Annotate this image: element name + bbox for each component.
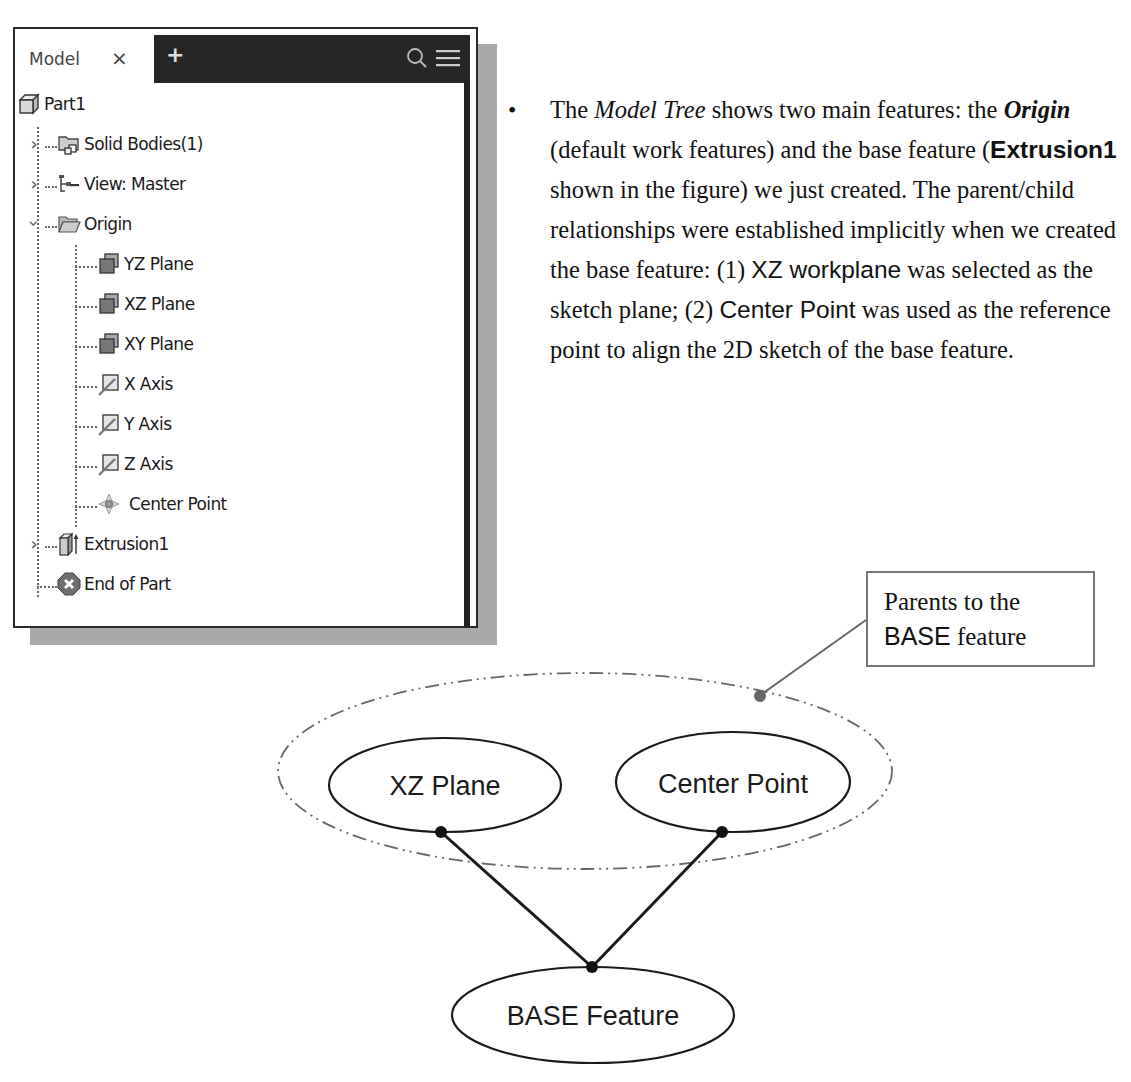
view-rep-icon bbox=[57, 172, 81, 196]
tree-connector bbox=[75, 506, 97, 508]
work-plane-icon bbox=[97, 332, 121, 356]
tree-connector bbox=[75, 306, 97, 308]
chevron-right-icon[interactable]: › bbox=[27, 173, 41, 194]
chevron-right-icon[interactable]: › bbox=[27, 133, 41, 154]
text-run: (default work features) and the base fea… bbox=[550, 136, 990, 163]
node-center-point-label: Center Point bbox=[658, 769, 809, 799]
tree-item-extrusion1[interactable]: Extrusion1 bbox=[57, 527, 169, 561]
work-point-icon bbox=[97, 492, 121, 516]
tree-item-label: XY Plane bbox=[124, 334, 193, 354]
node-base-feature bbox=[452, 967, 734, 1063]
search-icon[interactable] bbox=[406, 47, 428, 69]
tree-item-label: Center Point bbox=[129, 494, 227, 514]
callout-rest: feature bbox=[951, 623, 1027, 650]
tree-connector bbox=[75, 426, 97, 428]
solid-bodies-icon bbox=[57, 132, 81, 156]
text-run-sans: Center Point bbox=[719, 296, 855, 323]
text-run-bold-italic: Origin bbox=[1004, 96, 1071, 123]
text-run: shows two main features: the bbox=[706, 96, 1004, 123]
tree-connector bbox=[75, 266, 97, 268]
chevron-right-icon[interactable]: › bbox=[27, 533, 41, 554]
tree-item-x-axis[interactable]: X Axis bbox=[97, 367, 173, 401]
model-browser-panel: Model × + bbox=[13, 27, 478, 628]
tree-connector bbox=[75, 386, 97, 388]
tree-connector bbox=[45, 186, 57, 188]
end-of-part-icon bbox=[57, 572, 81, 596]
tree-item-label: Solid Bodies(1) bbox=[84, 134, 203, 154]
tree-item-label: Origin bbox=[84, 214, 132, 234]
tree-item-z-axis[interactable]: Z Axis bbox=[97, 447, 173, 481]
work-axis-icon bbox=[97, 372, 121, 396]
tree-item-label: Part1 bbox=[44, 94, 85, 114]
callout-leader-line bbox=[762, 620, 866, 694]
tab-model[interactable]: Model × bbox=[15, 35, 154, 83]
tree-item-origin[interactable]: Origin bbox=[57, 207, 132, 241]
text-run-sans: XZ workplane bbox=[751, 256, 901, 283]
open-folder-icon bbox=[57, 212, 81, 236]
node-base-feature-label: BASE Feature bbox=[507, 1001, 680, 1031]
tree-connector bbox=[37, 127, 39, 597]
tree-item-label: Extrusion1 bbox=[84, 534, 169, 554]
add-tab-button[interactable]: + bbox=[166, 43, 184, 67]
connector-line bbox=[441, 832, 592, 967]
tree-connector bbox=[45, 546, 57, 548]
work-axis-icon bbox=[97, 452, 121, 476]
panel-header: Model × + bbox=[15, 35, 470, 83]
parents-group-ellipse bbox=[278, 673, 892, 869]
bullet-icon: • bbox=[508, 90, 516, 130]
tree-item-label: YZ Plane bbox=[124, 254, 193, 274]
text-run: The bbox=[550, 96, 594, 123]
text-run-sans-bold: Extrusion1 bbox=[990, 136, 1117, 163]
tree-item-solid-bodies[interactable]: Solid Bodies(1) bbox=[57, 127, 203, 161]
node-xz-plane bbox=[329, 738, 561, 832]
part-icon bbox=[17, 92, 41, 116]
tree-connector bbox=[45, 146, 57, 148]
tree-connector bbox=[37, 586, 57, 588]
callout-anchor-dot bbox=[754, 690, 766, 702]
joint-dot bbox=[586, 961, 598, 973]
tree-item-label: Y Axis bbox=[124, 414, 171, 434]
callout-line-2: BASE feature bbox=[884, 619, 1093, 654]
joint-dot bbox=[716, 826, 728, 838]
tree-item-end-of-part[interactable]: End of Part bbox=[57, 567, 170, 601]
tree-item-label: X Axis bbox=[124, 374, 173, 394]
tree-item-y-axis[interactable]: Y Axis bbox=[97, 407, 171, 441]
tree-item-part1[interactable]: Part1 bbox=[17, 87, 85, 121]
text-run-italic: Model Tree bbox=[594, 96, 705, 123]
tree-item-center-point[interactable]: Center Point bbox=[97, 487, 227, 521]
tree-connector bbox=[75, 466, 97, 468]
extrusion-icon bbox=[57, 532, 81, 556]
tree-item-label: End of Part bbox=[84, 574, 170, 594]
tree-item-label: XZ Plane bbox=[124, 294, 195, 314]
connector-line bbox=[592, 832, 722, 967]
work-plane-icon bbox=[97, 292, 121, 316]
joint-dot bbox=[435, 826, 447, 838]
work-axis-icon bbox=[97, 412, 121, 436]
tab-model-label: Model bbox=[29, 49, 80, 69]
tree-item-view-master[interactable]: View: Master bbox=[57, 167, 185, 201]
tree-item-xy-plane[interactable]: XY Plane bbox=[97, 327, 193, 361]
callout-box: Parents to the BASE feature bbox=[866, 571, 1095, 667]
hamburger-menu-icon[interactable] bbox=[436, 48, 460, 68]
bullet-text: The Model Tree shows two main features: … bbox=[550, 90, 1130, 370]
tree-item-label: View: Master bbox=[84, 174, 185, 194]
tree-connector bbox=[45, 226, 57, 228]
node-center-point bbox=[616, 732, 850, 832]
chevron-down-icon[interactable]: › bbox=[24, 217, 45, 231]
callout-line-1: Parents to the bbox=[884, 585, 1093, 619]
work-plane-icon bbox=[97, 252, 121, 276]
tree-connector bbox=[75, 346, 97, 348]
callout-base-word: BASE bbox=[884, 622, 951, 650]
tree-item-label: Z Axis bbox=[124, 454, 173, 474]
node-xz-plane-label: XZ Plane bbox=[389, 771, 500, 801]
tree-item-xz-plane[interactable]: XZ Plane bbox=[97, 287, 195, 321]
scrollbar[interactable] bbox=[464, 79, 470, 626]
tree-item-yz-plane[interactable]: YZ Plane bbox=[97, 247, 193, 281]
close-icon[interactable]: × bbox=[111, 48, 128, 68]
panel-toolbar: + bbox=[154, 35, 470, 83]
